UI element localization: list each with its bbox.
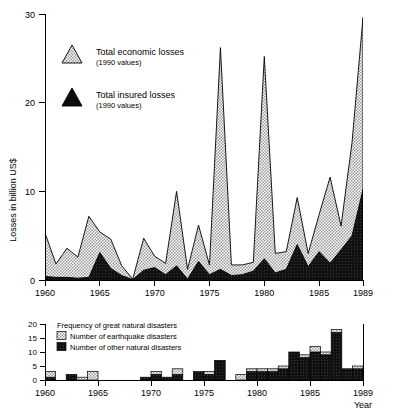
bar-other-1987 [331,332,342,380]
top-y-tick-0: 0 [30,276,35,286]
top-x-tick-1980: 1980 [254,288,274,298]
top-x-tick-1975: 1975 [199,288,219,298]
bottom-chart-legend: Frequency of great natural disasters Num… [57,321,182,352]
bar-eq-1981 [268,369,279,372]
bar-eq-1984 [299,355,310,358]
bar-other-1980 [257,372,268,380]
bottom-x-tick-1975: 1975 [194,388,214,398]
top-x-tick-1960: 1960 [35,288,55,298]
bar-eq-1970 [151,372,162,375]
bar-eq-1982 [278,366,289,369]
bar-other-1986 [321,355,332,380]
bar-eq-1972 [172,369,183,375]
bar-eq-1978 [236,374,247,380]
bar-other-1972 [172,374,183,380]
legend-other-label: Number of other natural disasters [70,343,182,352]
figure-container: 0 10 20 30 1960 1965 1970 1975 1980 1985 [0,0,397,420]
bar-other-1970 [151,374,162,380]
bar-other-1983 [289,352,300,380]
bottom-y-tick-5: 5 [33,362,38,371]
bar-eq-1987 [331,330,342,333]
charts-svg: 0 10 20 30 1960 1965 1970 1975 1980 1985 [0,0,397,420]
legend-economic-sublabel: (1990 values) [96,58,142,67]
bar-other-1981 [268,372,279,380]
bottom-chart-x-axis-title: Year [354,400,372,410]
bar-eq-1986 [321,352,332,355]
bar-eq-1960 [45,372,56,378]
bottom-chart-title: Frequency of great natural disasters [57,321,177,330]
bar-other-1984 [299,358,310,380]
bottom-y-tick-20: 20 [28,320,37,329]
top-chart-y-axis-title: Losses in billion US$ [8,158,18,242]
bar-other-1976 [215,360,226,380]
top-x-tick-1989: 1989 [353,288,373,298]
bar-other-1988 [342,369,353,380]
legend-earthquake-label: Number of earthquake disasters [70,332,177,341]
bar-eq-1985 [310,346,321,352]
top-x-tick-1970: 1970 [145,288,165,298]
bottom-y-tick-10: 10 [28,348,37,357]
top-x-tick-1965: 1965 [90,288,110,298]
bar-other-1982 [278,369,289,380]
bottom-x-tick-1965: 1965 [88,388,108,398]
legend-swatch-earthquake-icon [57,332,66,340]
bar-other-1985 [310,352,321,380]
bar-other-1962 [66,374,77,380]
top-y-tick-10: 10 [25,187,35,197]
legend-economic-label: Total economic losses [96,47,185,57]
bar-eq-1980 [257,369,268,372]
bar-eq-1979 [246,369,257,372]
bottom-x-tick-1980: 1980 [247,388,267,398]
bottom-x-tick-1970: 1970 [141,388,161,398]
legend-insured-label: Total insured losses [96,90,176,100]
bar-other-1975 [204,374,215,380]
bottom-y-tick-15: 15 [28,334,37,343]
bar-other-1974 [193,372,204,380]
bottom-x-tick-1960: 1960 [35,388,55,398]
legend-insured-sublabel: (1990 values) [96,101,142,110]
top-y-tick-20: 20 [25,98,35,108]
bar-eq-1989 [352,366,363,369]
bar-eq-1975 [204,372,215,375]
bar-eq-1964 [87,372,98,380]
bottom-x-tick-1989: 1989 [353,388,373,398]
legend-swatch-other-icon [57,343,66,351]
bar-other-1979 [246,372,257,380]
bottom-y-tick-0: 0 [33,376,38,385]
bar-other-1989 [352,369,363,380]
top-y-tick-30: 30 [25,10,35,20]
bottom-x-tick-1985: 1985 [300,388,320,398]
top-x-tick-1985: 1985 [309,288,329,298]
